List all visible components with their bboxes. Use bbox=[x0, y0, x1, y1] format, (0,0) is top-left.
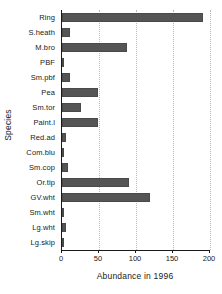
bar-row bbox=[62, 40, 210, 55]
gridline bbox=[210, 10, 211, 250]
bar-row bbox=[62, 70, 210, 85]
bar-row bbox=[62, 85, 210, 100]
bar-row bbox=[62, 235, 210, 250]
bar-row bbox=[62, 25, 210, 40]
y-axis-tick-label: Sm.wht bbox=[14, 205, 58, 220]
bar[interactable] bbox=[62, 28, 70, 37]
y-axis-tick-label: Or.tip bbox=[14, 175, 58, 190]
y-axis-tick-label: Pea bbox=[14, 85, 58, 100]
bar[interactable] bbox=[62, 43, 127, 52]
bar[interactable] bbox=[62, 208, 64, 217]
y-axis-tick-label: Paint.l bbox=[14, 115, 58, 130]
x-axis-tick-label: 150 bbox=[166, 254, 179, 263]
bar-row bbox=[62, 220, 210, 235]
y-axis-tick-label: Com.blu bbox=[14, 145, 58, 160]
bar[interactable] bbox=[62, 103, 81, 112]
y-axis-tick-label: Sm.tor bbox=[14, 100, 58, 115]
bar-row bbox=[62, 100, 210, 115]
bar-row bbox=[62, 190, 210, 205]
y-axis-tick-label: M.bro bbox=[14, 40, 58, 55]
y-axis-tick-label: Lg.skip bbox=[14, 235, 58, 250]
bar-row bbox=[62, 145, 210, 160]
y-axis-tick-label: Sm.cop bbox=[14, 160, 58, 175]
bar[interactable] bbox=[62, 163, 68, 172]
y-axis-tick-label: GV.wht bbox=[14, 190, 58, 205]
bar[interactable] bbox=[62, 178, 129, 187]
bar-row bbox=[62, 160, 210, 175]
x-axis-tick-label: 0 bbox=[59, 254, 63, 263]
y-axis-tick-label: Red.ad bbox=[14, 130, 58, 145]
bar-row bbox=[62, 130, 210, 145]
bar[interactable] bbox=[62, 223, 66, 232]
bar-chart: Species RingS.heathM.broPBFSm.pbfPeaSm.t… bbox=[0, 0, 222, 294]
bar[interactable] bbox=[62, 13, 203, 22]
bar-row bbox=[62, 10, 210, 25]
y-axis-tick-label: PBF bbox=[14, 55, 58, 70]
y-axis-tick-label: Lg.wht bbox=[14, 220, 58, 235]
x-axis-tick-label: 200 bbox=[203, 254, 216, 263]
bar[interactable] bbox=[62, 193, 150, 202]
bar-row bbox=[62, 175, 210, 190]
y-axis-title-text: Species bbox=[3, 109, 13, 141]
x-axis-tick-label: 50 bbox=[94, 254, 102, 263]
bar-row bbox=[62, 115, 210, 130]
x-axis-tick bbox=[209, 250, 210, 253]
plot-area bbox=[61, 10, 210, 250]
x-axis-tick bbox=[61, 250, 62, 253]
bar[interactable] bbox=[62, 133, 66, 142]
bar[interactable] bbox=[62, 118, 98, 127]
bar[interactable] bbox=[62, 148, 64, 157]
y-axis-tick-labels: RingS.heathM.broPBFSm.pbfPeaSm.torPaint.… bbox=[14, 10, 58, 250]
bar-row bbox=[62, 205, 210, 220]
x-axis-tick-label: 100 bbox=[129, 254, 142, 263]
y-axis-tick-label: Sm.pbf bbox=[14, 70, 58, 85]
bar[interactable] bbox=[62, 58, 64, 67]
bar-row bbox=[62, 55, 210, 70]
x-axis-ticks: 050100150200 bbox=[61, 250, 209, 256]
x-axis-tick bbox=[98, 250, 99, 253]
bar[interactable] bbox=[62, 88, 98, 97]
bar[interactable] bbox=[62, 238, 64, 247]
x-axis-tick bbox=[135, 250, 136, 253]
y-axis-tick-label: S.heath bbox=[14, 25, 58, 40]
bar[interactable] bbox=[62, 73, 70, 82]
bar-series bbox=[62, 10, 210, 250]
y-axis-tick-label: Ring bbox=[14, 10, 58, 25]
x-axis-title: Abundance in 1996 bbox=[61, 271, 209, 281]
x-axis-tick bbox=[172, 250, 173, 253]
